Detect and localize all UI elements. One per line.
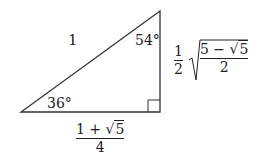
right-side-coefficient: 1 2 <box>174 44 183 76</box>
bottom-side-length: 1 + √5 4 <box>76 122 124 154</box>
radicand-numerator: 5 − √5 <box>200 42 248 57</box>
right-angle-marker <box>148 100 160 112</box>
angle-top-label: 54° <box>135 33 160 47</box>
angle-bottom-left-label: 36° <box>47 96 72 110</box>
hypotenuse-label: 1 <box>68 33 78 48</box>
right-side-radicand: 5 − √5 2 <box>200 42 248 74</box>
denominator: 4 <box>96 140 105 155</box>
triangle-figure <box>0 0 260 165</box>
numerator: 1 + √5 <box>76 122 124 137</box>
triangle <box>21 11 160 112</box>
